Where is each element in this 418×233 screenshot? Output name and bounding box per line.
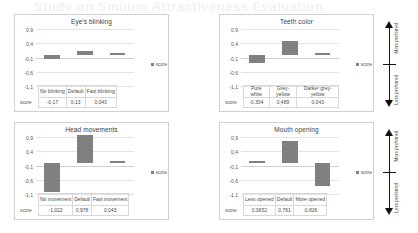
- chart-panel-1: Teeth color 0,90,4-0,1-0,6-1,1 score Pur…: [219, 14, 374, 112]
- bar: [282, 141, 298, 163]
- score-value-cell: 0,13: [66, 98, 85, 108]
- preference-label-more: More preferred: [394, 23, 399, 53]
- y-axis-tick-label: -0,1: [24, 164, 33, 170]
- legend-0: score: [151, 62, 167, 67]
- legend-label-2: score: [156, 170, 167, 175]
- preference-midpoint-tick: [383, 172, 396, 173]
- y-axis-tick-label: 0,4: [26, 149, 33, 155]
- score-row-label-1: score: [224, 98, 244, 108]
- y-axis-tick-label: -0,6: [229, 178, 238, 184]
- table-corner-3: [224, 194, 244, 206]
- figure-sheet: Study on Smiling Attractiveness Evaluati…: [0, 0, 418, 233]
- category-header-cell: Darker grey-yellow: [297, 86, 339, 98]
- category-header-cell: Default: [73, 194, 92, 206]
- chart-title-0: Eye's blinking: [15, 18, 168, 25]
- score-value-cell: -1,022: [39, 206, 73, 216]
- chart-cell-1: Teeth color 0,90,4-0,1-0,6-1,1 score Pur…: [209, 10, 418, 118]
- legend-label-1: score: [361, 62, 372, 67]
- category-header-cell: Less opened: [244, 194, 276, 206]
- y-axis-tick-label: -0,1: [24, 56, 33, 62]
- table-row: Less openedDefaultMore opened: [224, 194, 326, 206]
- bar: [110, 53, 126, 54]
- bar: [77, 51, 93, 55]
- preference-label-less: Less preferred: [394, 75, 399, 105]
- legend-swatch-icon: [356, 63, 359, 66]
- score-row-label-2: score: [19, 206, 39, 216]
- y-axis-tick-label: 0,9: [231, 27, 238, 33]
- category-header-cell: Fast movement: [91, 194, 128, 206]
- preference-label-less: Less preferred: [394, 183, 399, 213]
- table-corner-2: [19, 194, 39, 206]
- table-row: score0,06520,761-0,826: [224, 206, 326, 216]
- legend-label-0: score: [156, 62, 167, 67]
- category-header-cell: Fast blinking: [85, 86, 116, 98]
- table-corner-1: [224, 86, 244, 98]
- legend-swatch-icon: [151, 171, 154, 174]
- bar: [77, 135, 93, 163]
- table-row: No movementDefaultFast movement: [19, 194, 129, 206]
- category-header-cell: No movement: [39, 194, 73, 206]
- y-axis-tick-label: 0,9: [231, 135, 238, 141]
- legend-3: score: [356, 170, 372, 175]
- score-value-cell: 0,761: [275, 206, 294, 216]
- category-header-cell: No blinking: [39, 86, 67, 98]
- arrow-down-icon: [385, 100, 393, 107]
- score-row-label-0: score: [19, 98, 39, 108]
- score-value-cell: 0,978: [73, 206, 92, 216]
- y-axis-tick-label: 0,4: [26, 41, 33, 47]
- bar: [44, 163, 60, 192]
- bar: [249, 55, 265, 64]
- y-axis-tick-label: 0,9: [26, 135, 33, 141]
- arrow-up-icon: [385, 129, 393, 136]
- bars-3: [241, 137, 339, 194]
- score-value-cell: 0,043: [85, 98, 116, 108]
- category-header-cell: More opened: [294, 194, 326, 206]
- bar: [282, 41, 298, 55]
- score-value-cell: 0,043: [297, 98, 339, 108]
- bars-0: [36, 29, 134, 86]
- chart-title-3: Mouth opening: [220, 126, 373, 133]
- y-axis-tick-label: -0,6: [24, 70, 33, 76]
- y-axis-tick-label: -0,1: [229, 56, 238, 62]
- preference-label-more: More preferred: [394, 131, 399, 161]
- data-table-3: Less openedDefaultMore opened score0,065…: [224, 193, 327, 216]
- chart-cell-2: Head movements 0,90,4-0,1-0,6-1,1 score …: [0, 118, 209, 226]
- arrow-up-icon: [385, 21, 393, 28]
- legend-swatch-icon: [151, 63, 154, 66]
- score-value-cell: -0,826: [294, 206, 326, 216]
- table-row: score-0,170,130,043: [19, 98, 116, 108]
- chart-panel-2: Head movements 0,90,4-0,1-0,6-1,1 score …: [14, 122, 169, 220]
- arrow-down-icon: [385, 208, 393, 215]
- preference-arrow-1: More preferred Less preferred: [380, 22, 414, 106]
- plot-area-0: 0,90,4-0,1-0,6-1,1: [36, 29, 134, 86]
- bar: [249, 161, 265, 163]
- y-axis-tick-label: -0,6: [229, 70, 238, 76]
- legend-swatch-icon: [356, 171, 359, 174]
- data-table-0: No blinkingDefaultFast blinking score-0,…: [19, 85, 117, 108]
- plot-area-3: 0,90,4-0,1-0,6-1,1: [241, 137, 339, 194]
- score-value-cell: -0,17: [39, 98, 67, 108]
- chart-panel-3: Mouth opening 0,90,4-0,1-0,6-1,1 score L…: [219, 122, 374, 220]
- legend-1: score: [356, 62, 372, 67]
- y-axis-tick-label: 0,4: [231, 149, 238, 155]
- bars-2: [36, 137, 134, 194]
- bars-1: [241, 29, 339, 86]
- category-header-cell: Grey-yellow: [269, 86, 297, 98]
- bar: [315, 163, 331, 187]
- score-value-cell: 0,043: [91, 206, 128, 216]
- table-row: No blinkingDefaultFast blinking: [19, 86, 116, 98]
- category-header-cell: Pure white: [244, 86, 270, 98]
- data-table-2: No movementDefaultFast movement score-1,…: [19, 193, 129, 216]
- chart-title-2: Head movements: [15, 126, 168, 133]
- score-row-label-3: score: [224, 206, 244, 216]
- score-value-cell: 0,489: [269, 98, 297, 108]
- chart-cell-3: Mouth opening 0,90,4-0,1-0,6-1,1 score L…: [209, 118, 418, 226]
- data-table-1: Pure whiteGrey-yellowDarker grey-yellow …: [224, 85, 339, 108]
- table-corner-0: [19, 86, 39, 98]
- chart-cell-0: Eye's blinking 0,90,4-0,1-0,6-1,1 score …: [0, 10, 209, 118]
- plot-area-2: 0,90,4-0,1-0,6-1,1: [36, 137, 134, 194]
- legend-label-3: score: [361, 170, 372, 175]
- y-axis-tick-label: -0,1: [229, 164, 238, 170]
- y-axis-tick-label: 0,9: [26, 27, 33, 33]
- chart-panel-0: Eye's blinking 0,90,4-0,1-0,6-1,1 score …: [14, 14, 169, 112]
